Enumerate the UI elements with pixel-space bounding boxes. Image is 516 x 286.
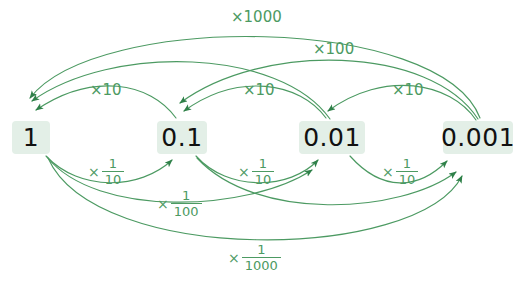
fraction-denominator: 10 [252,172,275,186]
arc-multiply-1000-thousandth-to-one [30,37,480,118]
multiplication-sign-icon: × [382,165,394,179]
label-text: ×10 [243,83,275,98]
label-text: ×1000 [231,10,282,25]
label-multiply-10-left: ×10 [90,83,122,98]
label-multiply-10-middle: ×10 [243,83,275,98]
fraction-numerator: 1 [254,243,268,257]
multiplication-sign-icon: × [238,165,250,179]
node-label: 0.1 [161,125,202,150]
label-multiply-1000: ×1000 [231,10,282,25]
fraction-denominator: 10 [396,172,419,186]
fraction-numerator: 1 [106,157,120,171]
fraction-numerator: 1 [256,157,270,171]
label-text: ×10 [90,83,122,98]
fraction-one-tenth: 1 10 [102,157,125,186]
diagram-canvas: 1 0.1 0.01 0.001 ×1000 ×100 ×10 ×10 ×10 … [0,0,516,286]
fraction-denominator: 10 [102,172,125,186]
fraction-numerator: 1 [179,189,193,203]
multiplication-sign-icon: × [88,165,100,179]
label-text: ×100 [313,42,354,57]
fraction-one-hundredth: 1 100 [171,189,202,218]
node-value-hundredth[interactable]: 0.01 [299,121,365,154]
label-divide-tenth-left: × 1 10 [88,157,124,186]
node-value-thousandth[interactable]: 0.001 [443,121,513,154]
node-label: 1 [23,125,39,150]
node-label: 0.01 [303,125,361,150]
node-value-tenth[interactable]: 0.1 [157,121,207,154]
label-multiply-100: ×100 [313,42,354,57]
label-divide-thousandth: × 1 1000 [228,243,281,272]
label-divide-tenth-middle: × 1 10 [238,157,274,186]
fraction-denominator: 1000 [242,258,281,272]
label-divide-tenth-right: × 1 10 [382,157,418,186]
fraction-one-thousandth: 1 1000 [242,243,281,272]
multiplication-sign-icon: × [228,251,240,265]
fraction-one-tenth: 1 10 [396,157,419,186]
node-label: 0.001 [441,125,515,150]
label-multiply-10-right: ×10 [392,83,424,98]
fraction-denominator: 100 [171,204,202,218]
multiplication-sign-icon: × [157,197,169,211]
fraction-numerator: 1 [400,157,414,171]
label-text: ×10 [392,83,424,98]
label-divide-hundredth: × 1 100 [157,189,202,218]
fraction-one-tenth: 1 10 [252,157,275,186]
node-value-one[interactable]: 1 [12,121,50,154]
